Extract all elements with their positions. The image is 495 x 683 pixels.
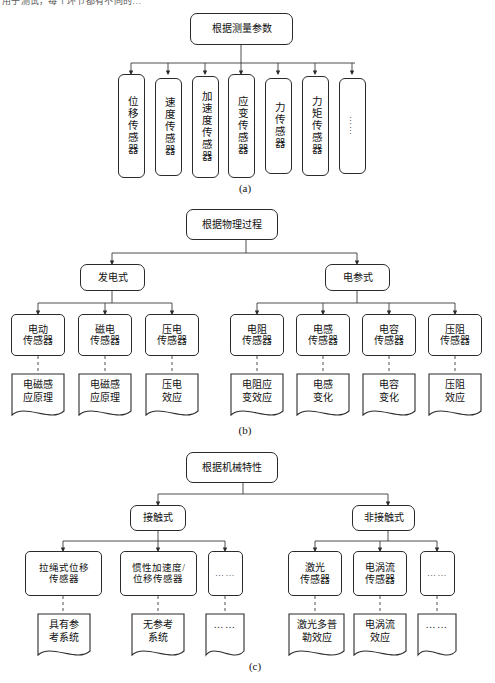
panel-a-caption: (a) xyxy=(215,182,275,194)
node-b-child-4[interactable]: 电感传感器 xyxy=(296,314,350,356)
doc-b-principle-2-label: 压电效应 xyxy=(145,379,199,404)
node-a-leaf-4[interactable]: 力传感器 xyxy=(265,78,292,174)
panel-b-caption: (b) xyxy=(215,424,275,436)
node-b-child-5[interactable]: 电容传感器 xyxy=(362,314,416,356)
node-a-leaf-6-label: …… xyxy=(347,116,357,136)
node-c-root-label: 根据机械特性 xyxy=(202,462,262,473)
doc-b-principle-5[interactable]: 电容变化 xyxy=(362,373,416,420)
node-b-branch-1-label: 电参式 xyxy=(343,272,373,283)
node-b-child-1[interactable]: 磁电传感器 xyxy=(78,314,132,356)
figure-canvas: 用于测试，每个环节都有不同的… xyxy=(0,0,495,683)
doc-b-principle-1[interactable]: 电磁感应原理 xyxy=(78,373,132,420)
node-c-child-3[interactable]: 激光传感器 xyxy=(288,551,342,596)
node-a-root[interactable]: 根据测量参数 xyxy=(190,13,293,45)
node-a-leaf-5[interactable]: 力矩传感器 xyxy=(302,76,329,176)
doc-b-principle-0[interactable]: 电磁感应原理 xyxy=(11,373,65,420)
node-a-leaf-3-label: 应变传感器 xyxy=(236,96,247,156)
node-a-leaf-6[interactable]: …… xyxy=(339,78,366,174)
node-c-child-4[interactable]: 电涡流传感器 xyxy=(353,551,407,596)
node-a-root-label: 根据测量参数 xyxy=(212,23,272,34)
node-b-child-2-label: 压电传感器 xyxy=(157,324,187,346)
node-c-child-4-label: 电涡流传感器 xyxy=(365,562,395,584)
node-a-leaf-0-label: 位移传感器 xyxy=(126,96,137,156)
doc-c-principle-2-label: …… xyxy=(205,619,245,632)
node-a-leaf-2[interactable]: 加速度传感器 xyxy=(192,76,219,178)
node-a-leaf-4-label: 力传感器 xyxy=(273,102,284,150)
node-b-child-6-label: 压阻传感器 xyxy=(440,324,470,346)
node-c-branch-1-label: 非接触式 xyxy=(364,512,404,523)
node-b-child-3-label: 电阻传感器 xyxy=(242,324,272,346)
doc-b-principle-5-label: 电容变化 xyxy=(362,379,416,404)
node-c-root[interactable]: 根据机械特性 xyxy=(186,452,278,483)
doc-c-principle-5[interactable]: …… xyxy=(417,613,457,660)
doc-c-principle-1[interactable]: 无参考系统 xyxy=(131,613,185,660)
node-b-root[interactable]: 根据物理过程 xyxy=(186,209,278,240)
node-a-leaf-1[interactable]: 速度传感器 xyxy=(155,78,182,176)
doc-b-principle-3[interactable]: 电阻应变效应 xyxy=(230,373,284,420)
node-a-leaf-2-label: 加速度传感器 xyxy=(200,91,211,163)
node-c-child-1[interactable]: 惯性加速度/位移传感器 xyxy=(120,551,197,596)
node-b-child-3[interactable]: 电阻传感器 xyxy=(230,314,284,356)
node-c-branch-0-label: 接触式 xyxy=(143,512,173,523)
node-b-branch-0-label: 发电式 xyxy=(98,272,128,283)
doc-c-principle-0-label: 具有参考系统 xyxy=(37,619,91,644)
doc-b-principle-2[interactable]: 压电效应 xyxy=(145,373,199,420)
node-b-root-label: 根据物理过程 xyxy=(202,219,262,230)
node-c-child-5-label: …… xyxy=(427,568,448,578)
node-a-leaf-1-label: 速度传感器 xyxy=(163,97,174,157)
node-b-branch-0[interactable]: 发电式 xyxy=(80,264,145,291)
doc-c-principle-3-label: 激光多普勒效应 xyxy=(288,619,345,644)
node-b-child-1-label: 磁电传感器 xyxy=(90,324,120,346)
doc-b-principle-3-label: 电阻应变效应 xyxy=(230,379,284,404)
node-c-child-0-label: 拉绳式位移传感器 xyxy=(39,563,89,584)
node-a-leaf-5-label: 力矩传感器 xyxy=(310,96,321,156)
panel-c-caption: (c) xyxy=(225,660,285,672)
node-b-branch-1[interactable]: 电参式 xyxy=(325,264,390,291)
node-c-child-2[interactable]: …… xyxy=(208,551,243,596)
node-c-child-3-label: 激光传感器 xyxy=(300,562,330,584)
node-b-child-2[interactable]: 压电传感器 xyxy=(145,314,199,356)
node-a-leaf-0[interactable]: 位移传感器 xyxy=(118,74,145,178)
doc-c-principle-3[interactable]: 激光多普勒效应 xyxy=(288,613,345,660)
doc-c-principle-2[interactable]: …… xyxy=(205,613,245,660)
doc-b-principle-4[interactable]: 电感变化 xyxy=(296,373,350,420)
doc-c-principle-0[interactable]: 具有参考系统 xyxy=(37,613,91,660)
node-c-child-0[interactable]: 拉绳式位移传感器 xyxy=(25,551,102,596)
node-b-child-0-label: 电动传感器 xyxy=(23,324,53,346)
node-c-child-5[interactable]: …… xyxy=(420,551,455,596)
doc-c-principle-1-label: 无参考系统 xyxy=(131,619,185,644)
doc-b-principle-0-label: 电磁感应原理 xyxy=(11,379,65,404)
doc-b-principle-6-label: 压阻效应 xyxy=(428,379,482,404)
node-c-child-1-label: 惯性加速度/位移传感器 xyxy=(132,563,185,584)
node-b-child-6[interactable]: 压阻传感器 xyxy=(428,314,482,356)
node-c-branch-1[interactable]: 非接触式 xyxy=(352,505,415,531)
doc-c-principle-4[interactable]: 电涡流效应 xyxy=(353,613,407,660)
node-b-child-0[interactable]: 电动传感器 xyxy=(11,314,65,356)
node-a-leaf-3[interactable]: 应变传感器 xyxy=(228,74,255,178)
doc-c-principle-4-label: 电涡流效应 xyxy=(353,619,407,644)
node-b-child-4-label: 电感传感器 xyxy=(308,324,338,346)
doc-b-principle-1-label: 电磁感应原理 xyxy=(78,379,132,404)
node-c-child-2-label: …… xyxy=(215,568,236,578)
node-c-branch-0[interactable]: 接触式 xyxy=(130,505,186,531)
doc-b-principle-6[interactable]: 压阻效应 xyxy=(428,373,482,420)
doc-c-principle-5-label: …… xyxy=(417,619,457,632)
node-b-child-5-label: 电容传感器 xyxy=(374,324,404,346)
doc-b-principle-4-label: 电感变化 xyxy=(296,379,350,404)
